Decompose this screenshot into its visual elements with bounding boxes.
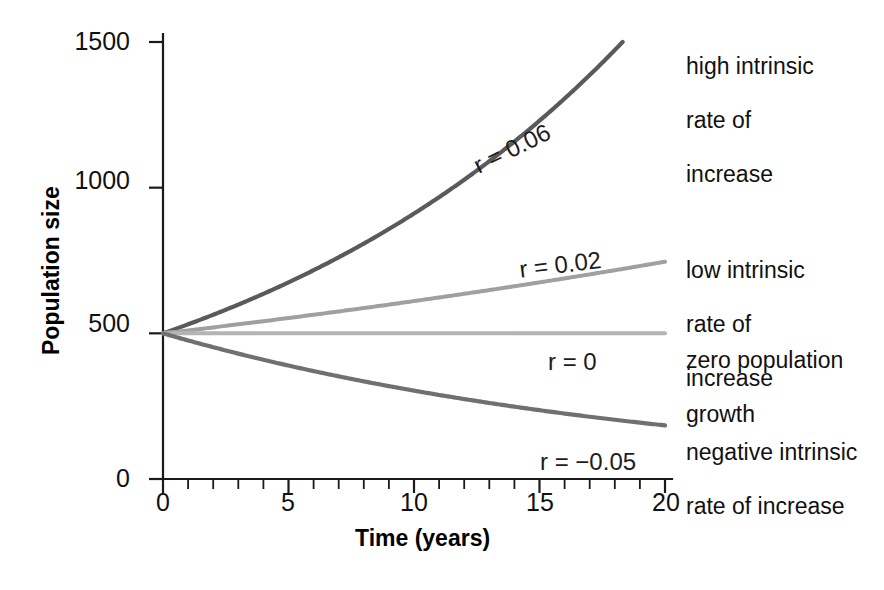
- x-tick-label-0: 0: [133, 490, 193, 515]
- y-axis-ticks: [149, 42, 163, 479]
- annotation-neg-line-2: rate of increase: [686, 493, 857, 520]
- y-axis-title: Population size: [40, 186, 63, 355]
- annotation-high-line-1: high intrinsic: [686, 53, 814, 80]
- annotation-high-line-3: increase: [686, 161, 814, 188]
- annotation-low-line-1: low intrinsic: [686, 257, 805, 284]
- x-tick-label-15: 15: [510, 490, 570, 515]
- y-tick-label-1500: 1500: [30, 29, 130, 54]
- y-tick-label-0: 0: [30, 466, 130, 491]
- x-tick-label-10: 10: [384, 490, 444, 515]
- annotation-negative-intrinsic: negative intrinsic rate of increase: [686, 412, 857, 547]
- x-tick-label-5: 5: [258, 490, 318, 515]
- population-growth-figure: 1500 1000 500 0 0 5 10 15 20 Population …: [0, 0, 884, 590]
- annotation-high-line-2: rate of: [686, 107, 814, 134]
- annotation-neg-line-1: negative intrinsic: [686, 439, 857, 466]
- annotation-high-intrinsic: high intrinsic rate of increase: [686, 26, 814, 214]
- curve-high-intrinsic-rate-of-increase: [163, 42, 623, 333]
- annotation-zero-line-1: zero population: [686, 347, 843, 374]
- x-axis-title: Time (years): [355, 527, 490, 550]
- curve-label-r-000: r = 0: [548, 350, 597, 374]
- curve-label-r-neg-005: r = −0.05: [540, 450, 636, 474]
